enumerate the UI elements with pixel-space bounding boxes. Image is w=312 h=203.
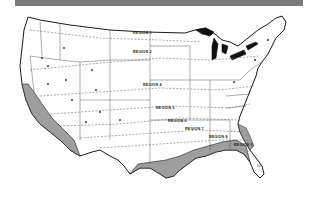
florida-zone-label: 10 bbox=[257, 164, 261, 168]
region-label-5: REGION 5 bbox=[156, 106, 175, 110]
region-label-4: REGION 4 bbox=[143, 83, 162, 87]
region-label-9: REGION 9 bbox=[234, 143, 253, 147]
region-label-6: REGION 6 bbox=[168, 119, 187, 123]
region-label-8: REGION 8 bbox=[209, 135, 228, 139]
region-label-1: REGION 1 bbox=[133, 31, 152, 35]
region-label-7: REGION 7 bbox=[185, 127, 204, 131]
us-region-map: REGION 1 REGION 2 REGION 4 REGION 5 REGI… bbox=[0, 0, 312, 203]
region-label-2: REGION 2 bbox=[133, 50, 152, 54]
